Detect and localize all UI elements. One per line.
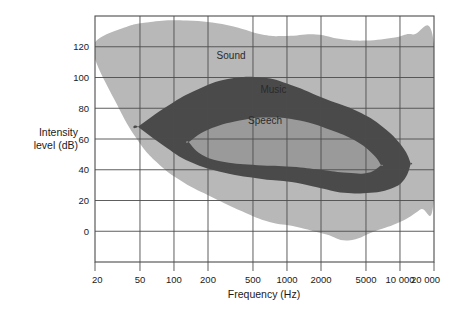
y-tick-label: 40 (78, 164, 89, 175)
x-tick-label: 20 000 (411, 274, 440, 285)
region-label-sound: Sound (217, 50, 246, 61)
x-tick-label: 2000 (310, 274, 331, 285)
region-label-music: Music (260, 84, 286, 95)
x-tick-label: 5000 (355, 274, 376, 285)
y-tick-label: 0 (84, 226, 89, 237)
y-tick-label: 80 (78, 103, 89, 114)
x-axis-title: Frequency (Hz) (228, 288, 300, 300)
y-tick-label: 120 (73, 41, 89, 52)
chart-container: 205010020050010002000500010 00020 000 02… (0, 0, 466, 312)
x-tick-label: 200 (200, 274, 216, 285)
x-tick-label: 1000 (276, 274, 297, 285)
x-tick-label: 50 (135, 274, 146, 285)
y-tick-label: 20 (78, 195, 89, 206)
y-axis-title-line1: Intensity (39, 126, 79, 138)
y-tick-label: 100 (73, 72, 89, 83)
y-axis-title-line2: level (dB) (34, 139, 78, 151)
y-tick-label: 60 (78, 134, 89, 145)
x-tick-label: 500 (245, 274, 261, 285)
region-label-speech: Speech (248, 115, 282, 126)
frequency-intensity-chart: 205010020050010002000500010 00020 000 02… (0, 0, 466, 312)
x-tick-label: 100 (166, 274, 182, 285)
x-tick-label: 20 (92, 274, 103, 285)
